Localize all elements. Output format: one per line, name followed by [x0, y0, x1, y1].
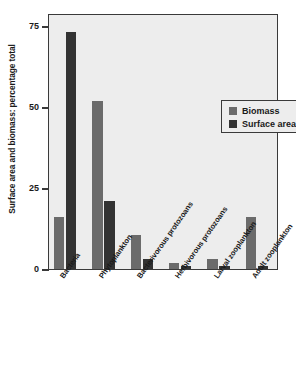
bar-biomass — [54, 217, 65, 269]
bar-surface-area — [66, 32, 77, 269]
y-axis-title: Surface area and biomass: percentage tot… — [7, 15, 17, 243]
chart-legend: Biomass Surface area — [221, 100, 296, 133]
y-tick-label: 50 — [29, 102, 39, 112]
bar-chart-figure: Surface area and biomass: percentage tot… — [0, 0, 296, 369]
y-tick-label: 0 — [34, 264, 39, 274]
y-tick-label: 25 — [29, 183, 39, 193]
legend-swatch-biomass-icon — [229, 107, 237, 115]
legend-swatch-surface-area-icon — [229, 120, 237, 128]
legend-item-surface-area: Surface area — [229, 117, 296, 130]
y-axis-title-container: Surface area and biomass: percentage tot… — [0, 0, 22, 272]
legend-item-biomass: Biomass — [229, 104, 296, 117]
legend-label-biomass: Biomass — [242, 106, 280, 116]
y-tick-label: 75 — [29, 21, 39, 31]
legend-label-surface-area: Surface area — [242, 119, 296, 129]
bar-biomass — [92, 101, 103, 270]
